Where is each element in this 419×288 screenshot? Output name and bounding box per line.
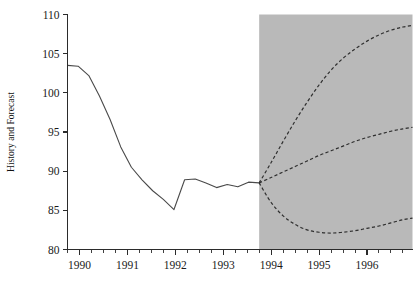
series-line	[68, 65, 260, 209]
y-axis-title: History and Forecast	[5, 92, 16, 172]
x-tick-label: 1995	[308, 259, 331, 271]
y-tick-label: 90	[48, 165, 60, 177]
x-tick-label: 1992	[164, 259, 187, 271]
y-tick-label: 80	[48, 244, 60, 256]
x-tick-label: 1994	[260, 259, 283, 271]
x-tick-label: 1991	[116, 259, 139, 271]
y-tick-label: 100	[42, 87, 60, 99]
y-tick-label: 110	[43, 9, 60, 21]
x-axis-ticks: 1990199119921993199419951996	[68, 250, 403, 271]
chart-container: 80859095100105110 1990199119921993199419…	[0, 0, 419, 288]
y-tick-label: 105	[42, 48, 60, 60]
y-axis-title-group: History and Forecast	[5, 92, 16, 172]
y-axis-ticks: 80859095100105110	[42, 9, 67, 256]
x-tick-label: 1996	[355, 259, 378, 271]
y-tick-label: 85	[48, 204, 60, 216]
x-tick-label: 1990	[68, 259, 91, 271]
x-tick-label: 1993	[212, 259, 235, 271]
history-and-forecast-chart: 80859095100105110 1990199119921993199419…	[0, 0, 419, 288]
y-tick-label: 95	[48, 126, 60, 138]
